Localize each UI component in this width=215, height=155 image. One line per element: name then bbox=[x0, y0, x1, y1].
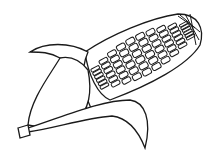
corn-cob bbox=[85, 14, 202, 100]
corn-illustration bbox=[0, 0, 215, 155]
stem bbox=[18, 125, 30, 138]
